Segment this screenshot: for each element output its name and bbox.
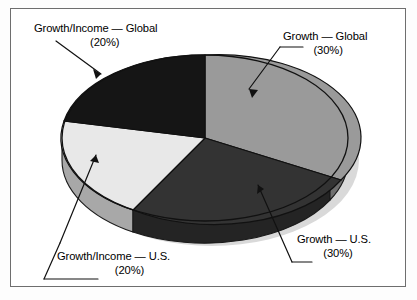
callout-name-growth-income-global: Growth/Income — Global xyxy=(34,22,157,34)
callout-pct-growth-income-global: (20%) xyxy=(34,36,157,50)
callout-label-growth-global: Growth — Global (30%) xyxy=(283,30,367,57)
callout-label-growth-us: Growth — U.S. (30%) xyxy=(297,233,371,260)
callout-label-growth-income-global: Growth/Income — Global (20%) xyxy=(34,22,157,49)
callout-pct-growth-global: (30%) xyxy=(283,44,367,58)
pie-top-face xyxy=(61,55,361,225)
callout-name-growth-global: Growth — Global xyxy=(283,30,367,42)
callout-name-growth-income-us: Growth/Income — U.S. xyxy=(57,250,170,262)
callout-pct-growth-income-us: (20%) xyxy=(57,264,170,278)
pie-chart-figure: Growth/Income — Global (20%) Growth — Gl… xyxy=(0,0,417,300)
callout-pct-growth-us: (30%) xyxy=(297,247,371,261)
callout-name-growth-us: Growth — U.S. xyxy=(297,233,371,245)
callout-label-growth-income-us: Growth/Income — U.S. (20%) xyxy=(57,250,170,277)
